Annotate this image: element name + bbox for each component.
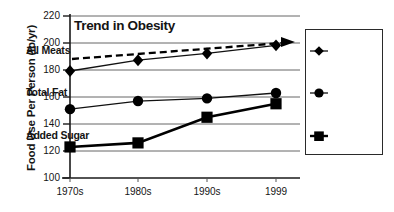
series-all-meats-line xyxy=(70,45,276,71)
obesity-trend-chart: Food Use Per Person (lb/yr) Trend in Obe… xyxy=(0,0,394,212)
legend-item-added-sugar[interactable]: Added Sugar xyxy=(26,130,89,141)
grid-lines xyxy=(70,16,300,151)
data-point-total-fat-1970s xyxy=(65,104,75,114)
data-point-all-meats-1999 xyxy=(271,39,281,51)
data-point-total-fat-1980s xyxy=(133,96,143,106)
data-point-all-meats-1980s xyxy=(133,54,143,66)
data-point-added-sugar-1970s xyxy=(64,141,75,152)
data-point-total-fat-1990s xyxy=(202,93,212,103)
series-total-fat-line xyxy=(70,93,276,109)
data-point-added-sugar-1990s xyxy=(201,112,212,123)
data-point-added-sugar-1980s xyxy=(132,137,143,148)
data-point-all-meats-1970s xyxy=(65,65,75,77)
data-point-added-sugar-1999 xyxy=(270,98,281,109)
series-added-sugar-line xyxy=(70,104,276,147)
trend-arrow-head xyxy=(281,37,295,47)
legend-box xyxy=(305,29,383,155)
legend-item-all-meats[interactable]: All Meats xyxy=(26,45,70,56)
data-point-total-fat-1999 xyxy=(271,88,281,98)
legend-item-total-fat[interactable]: Total Fat xyxy=(26,87,67,98)
